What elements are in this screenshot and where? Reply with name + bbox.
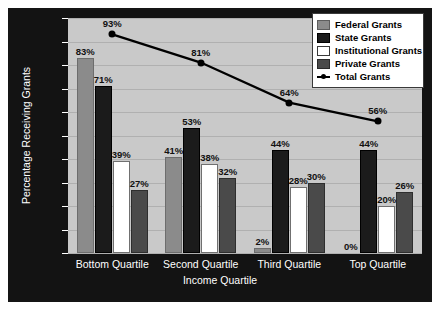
gridline bbox=[68, 253, 422, 254]
x-axis-tick-label: Second Quartile bbox=[163, 258, 238, 270]
line-marker-1 bbox=[197, 59, 204, 66]
line-value-label: 56% bbox=[368, 105, 387, 116]
line-value-label: 81% bbox=[191, 47, 210, 58]
legend-item-institutional[interactable]: Institutional Grants bbox=[317, 44, 418, 57]
legend-item-line[interactable]: Total Grants bbox=[317, 70, 418, 83]
legend-item-label: Institutional Grants bbox=[335, 45, 422, 56]
legend-swatch-federal-icon bbox=[317, 20, 330, 30]
legend-item-label: Federal Grants bbox=[335, 19, 402, 30]
legend-item-federal[interactable]: Federal Grants bbox=[317, 18, 418, 31]
y-axis-title: Percentage Receiving Grants bbox=[20, 18, 34, 253]
legend-swatch-private-icon bbox=[317, 59, 330, 69]
line-value-label: 64% bbox=[280, 87, 299, 98]
x-axis-tick-label: Top Quartile bbox=[349, 258, 406, 270]
legend-item-private[interactable]: Private Grants bbox=[317, 57, 418, 70]
legend-swatch-institutional-icon bbox=[317, 46, 330, 56]
line-marker-0 bbox=[109, 31, 116, 38]
x-axis-tick-label: Bottom Quartile bbox=[76, 258, 149, 270]
legend-item-state[interactable]: State Grants bbox=[317, 31, 418, 44]
legend-item-label: State Grants bbox=[335, 32, 392, 43]
line-marker-3 bbox=[374, 118, 381, 125]
legend-item-label: Total Grants bbox=[335, 71, 390, 82]
line-value-label: 93% bbox=[103, 18, 122, 29]
y-axis-tick bbox=[62, 253, 68, 254]
legend-swatch-line-icon bbox=[317, 72, 330, 82]
x-axis-tick-label: Third Quartile bbox=[257, 258, 321, 270]
legend-item-label: Private Grants bbox=[335, 58, 400, 69]
chart-legend: Federal GrantsState GrantsInstitutional … bbox=[312, 13, 424, 88]
chart-container: Percentage Receiving Grants 010203040506… bbox=[8, 8, 432, 302]
line-marker-2 bbox=[286, 99, 293, 106]
legend-swatch-state-icon bbox=[317, 33, 330, 43]
x-axis-title: Income Quartile bbox=[8, 274, 432, 286]
